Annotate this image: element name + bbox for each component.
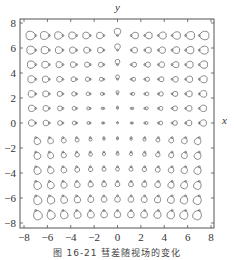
svg-text:8: 8 (11, 17, 17, 29)
comet-glyph (181, 181, 188, 188)
svg-text:−6: −6 (42, 231, 54, 243)
y-axis-label: y (114, 1, 120, 13)
svg-text:6: 6 (11, 42, 17, 54)
comet-glyph (102, 167, 106, 171)
svg-text:−2: −2 (88, 231, 100, 243)
comet-glyph (131, 77, 135, 81)
svg-text:4: 4 (162, 231, 168, 243)
comet-glyph (34, 181, 42, 189)
comet-glyph (40, 32, 49, 40)
svg-text:4: 4 (11, 67, 17, 79)
comet-glyph (180, 196, 187, 204)
comet-glyph (72, 121, 76, 125)
comet-glyph (167, 211, 174, 219)
comet-glyph (27, 46, 36, 54)
svg-text:8: 8 (208, 231, 214, 243)
comet-glyph (158, 121, 162, 125)
comet-glyph (61, 196, 68, 204)
comet-glyph (194, 181, 202, 189)
svg-text:6: 6 (185, 231, 191, 243)
comet-glyph (99, 77, 103, 81)
svg-text:−6: −6 (4, 192, 16, 204)
comet-glyph (61, 167, 67, 173)
comet-glyphs (26, 28, 209, 220)
comet-glyph (34, 196, 42, 205)
comet-glyph (47, 196, 54, 204)
comet-glyph (145, 92, 149, 96)
comet-glyph (158, 106, 162, 110)
comet-glyph (154, 211, 161, 219)
figure-caption: 图 16-21 彗差随视场的变化 (0, 246, 234, 259)
comet-glyph (74, 211, 81, 219)
comet-glyph (154, 196, 160, 203)
svg-text:2: 2 (138, 231, 144, 243)
comet-glyph (193, 210, 202, 219)
comet-glyph (129, 167, 133, 171)
comet-glyph (61, 211, 68, 219)
comet-glyph (193, 196, 201, 205)
comet-glyph (47, 210, 55, 219)
comet-glyph (72, 106, 76, 110)
svg-text:0: 0 (11, 117, 17, 129)
svg-text:−2: −2 (4, 142, 16, 154)
comet-glyph (34, 210, 43, 219)
comet-glyph (26, 31, 36, 40)
comet-glyph (199, 46, 208, 54)
comet-glyph (168, 167, 174, 173)
comet-glyph (116, 75, 120, 79)
x-tick-labels: −8−6−4−202468 (18, 231, 214, 243)
svg-text:−8: −8 (4, 217, 16, 229)
comet-glyph (74, 196, 80, 203)
comet-glyph (186, 32, 195, 40)
comet-glyph (167, 196, 174, 204)
svg-text:0: 0 (115, 231, 121, 243)
comet-glyph (116, 167, 120, 171)
comet-glyph (47, 181, 54, 188)
x-axis-label: x (221, 114, 227, 126)
comet-glyph (86, 92, 90, 96)
comet-glyph (61, 181, 67, 188)
svg-text:2: 2 (11, 92, 17, 104)
svg-text:−4: −4 (65, 231, 77, 243)
comet-glyph (199, 31, 209, 40)
y-tick-labels: 86420−2−4−6−8 (4, 17, 16, 229)
svg-text:−8: −8 (18, 231, 30, 243)
comet-glyph (168, 181, 174, 188)
svg-text:−4: −4 (4, 167, 16, 179)
comet-glyph (180, 210, 188, 219)
chart-figure: −8−6−4−202468 86420−2−4−6−8 y x (0, 0, 234, 260)
